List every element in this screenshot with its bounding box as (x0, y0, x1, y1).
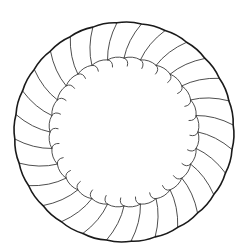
spoke-line (90, 27, 93, 65)
spoke-line (23, 91, 52, 116)
spoke-line (170, 58, 205, 74)
scallop-arc (182, 86, 191, 107)
scallop-arc (173, 164, 190, 179)
spoke-line (124, 24, 141, 58)
spoke-line (83, 204, 108, 233)
inner-scallop-ring (49, 57, 199, 207)
spoke-line (155, 199, 158, 237)
spoke-line (43, 190, 78, 206)
scallop-arc (57, 158, 66, 179)
scallop-arc (78, 65, 99, 74)
spoke-line (182, 178, 198, 213)
spoke-line (196, 116, 233, 125)
scallop-arc (66, 171, 78, 190)
spoke-line (156, 42, 186, 65)
spoke-line (170, 190, 178, 227)
spoke-line (70, 37, 78, 74)
spoke-line (140, 31, 165, 60)
outer-rim (14, 22, 234, 242)
spoke-line (29, 178, 66, 186)
spoke-line (19, 163, 57, 166)
spoke-line (61, 199, 91, 222)
plate-drawing (0, 0, 244, 251)
scallop-arc (188, 132, 199, 151)
radial-spokes (15, 23, 233, 241)
spoke-line (108, 23, 117, 60)
spoke-line (107, 206, 124, 240)
scallop-arc (124, 57, 143, 68)
spoke-line (50, 51, 66, 86)
scallop-arc (77, 181, 92, 198)
scallop-arc (66, 74, 85, 86)
spoke-line (191, 98, 229, 101)
scallop-arc (170, 74, 182, 93)
spoke-line (198, 132, 232, 149)
spoke-line (191, 164, 214, 194)
spoke-line (16, 115, 50, 132)
spoke-line (182, 78, 219, 86)
spoke-line (15, 139, 52, 148)
scallop-arc (156, 65, 171, 82)
scallop-arc (57, 85, 74, 100)
scallop-arc (49, 113, 60, 132)
scallop-arc (163, 178, 182, 190)
spoke-line (196, 148, 225, 173)
scallop-arc (105, 196, 124, 207)
spoke-line (34, 69, 57, 99)
spoke-line (131, 204, 140, 241)
scallop-arc (150, 190, 171, 199)
